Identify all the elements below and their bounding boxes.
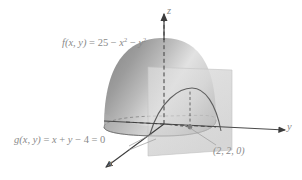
function-label-f-prefix: f(x, y) [62,37,86,48]
constraint-label-g-equals-one: = [41,134,52,145]
axis-label-z: z [167,6,171,17]
axis-label-x: x [108,158,113,169]
constraint-label-g-equals-two: = [89,134,100,145]
lagrange-multiplier-figure: f(x, y) = 25 − x2 − y2 g(x, y) = x + y −… [0,0,302,180]
point-dot [188,125,193,130]
point-coordinate-label: (2, 2, 0) [213,146,245,156]
constraint-label-g: g(x, y) = x + y − 4 = 0 [14,135,105,146]
function-label-f-minus-two: − [127,37,138,48]
constraint-label-g-minus: − [73,134,84,145]
function-label-f-constant: 25 [98,37,109,48]
constraint-label-g-prefix: g(x, y) [14,134,41,145]
constraint-label-g-zero: 0 [100,134,105,145]
function-label-f-equals: = [86,37,97,48]
constraint-plane-front [148,67,232,156]
axis-label-y: y [287,122,292,133]
function-label-f-term-two-exponent: 2 [143,36,146,43]
function-label-f: f(x, y) = 25 − x2 − y2 [62,38,146,49]
figure-canvas [0,0,302,180]
function-label-f-minus-one: − [108,37,119,48]
constraint-label-g-plus: + [57,134,68,145]
